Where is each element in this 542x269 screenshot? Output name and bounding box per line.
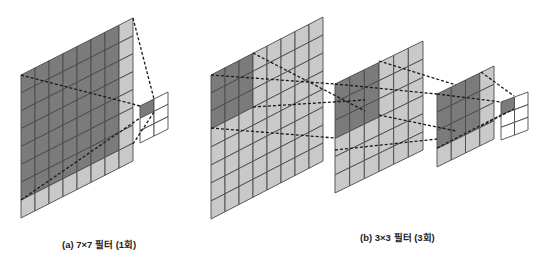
grid-intermediate-5x5	[335, 41, 423, 193]
connection-dashed-line	[133, 18, 154, 99]
grid-output	[140, 92, 168, 143]
grid-output	[501, 92, 528, 140]
receptive-field-diagram	[0, 0, 542, 269]
panel-a	[21, 18, 168, 218]
caption-a: (a) 7×7 필터 (1회)	[62, 237, 136, 251]
grid-intermediate-3x3	[437, 66, 494, 167]
panel-b	[211, 17, 528, 219]
caption-b: (b) 3×3 필터 (3회)	[360, 230, 435, 244]
grid-input-7x7	[211, 17, 323, 219]
